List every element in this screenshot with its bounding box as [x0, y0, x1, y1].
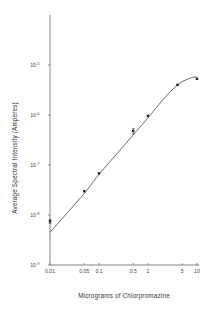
data-point-marker [176, 84, 178, 86]
data-point-marker [98, 172, 100, 174]
data-point-marker [83, 190, 85, 192]
x-axis-title: Micrograms of Chlorpromazine [78, 292, 170, 300]
y-tick-exponent: -7 [36, 161, 40, 166]
fit-line [50, 77, 197, 233]
y-tick-exponent: -6 [36, 111, 40, 116]
y-tick-exponent: -5 [36, 61, 40, 66]
x-tick-label: 0.1 [95, 268, 102, 274]
axes [50, 15, 199, 265]
data-point-marker [132, 130, 134, 132]
x-tick-label: 5 [181, 268, 184, 274]
x-tick-label: 1 [147, 268, 150, 274]
chart: 0.010.050.10.51510 10-910-810-710-610-5 … [0, 0, 213, 312]
data-point-marker [196, 78, 198, 80]
x-tick-label: 10 [194, 268, 200, 274]
data-point-marker [49, 220, 51, 222]
x-tick-label: 0.05 [79, 268, 89, 274]
y-tick-exponent: -9 [36, 261, 40, 266]
y-tick-exponent: -8 [36, 211, 40, 216]
x-tick-label: 0.01 [45, 268, 55, 274]
y-axis-title: Average Spectral Intensity (Amperes) [11, 102, 19, 214]
x-tick-label: 0.5 [130, 268, 137, 274]
y-axis-ticks: 10-910-810-710-610-5 [30, 61, 50, 268]
data-point-marker [147, 115, 149, 117]
data-points [49, 78, 198, 224]
fitted-curve [50, 77, 197, 233]
